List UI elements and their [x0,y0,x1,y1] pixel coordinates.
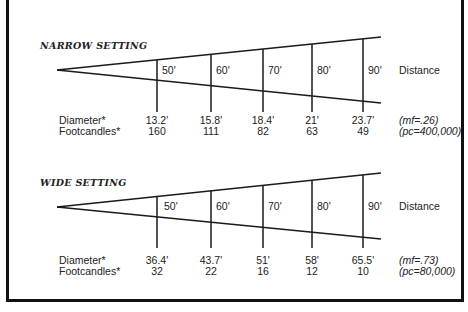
distance-label: 50' [162,64,176,76]
distance-label: 80' [317,200,331,212]
distance-axis-label: Distance [399,64,440,76]
footcandles-value: 22 [205,265,217,277]
pc-note: (pc=80,000) [399,265,455,277]
distance-label: 70' [268,200,282,212]
footcandles-value: 111 [203,125,219,137]
distance-label: 90' [368,200,382,212]
footcandles-value: 63 [306,125,318,137]
distance-label: 90' [368,64,382,76]
footcandles-row-label: Footcandles* [59,125,120,137]
distance-label: 80' [317,64,331,76]
distance-label: 60' [216,200,230,212]
footcandles-value: 160 [148,125,166,137]
footcandles-row-label: Footcandles* [59,265,120,277]
distance-axis-label: Distance [399,200,440,212]
distance-label: 60' [216,64,230,76]
footcandles-value: 10 [357,265,369,277]
footcandles-value: 49 [357,125,369,137]
pc-note: (pc=400,000) [399,125,461,137]
wide-setting-title: WIDE SETTING [40,177,127,188]
footcandles-value: 32 [151,265,163,277]
distance-label: 50' [164,200,178,212]
wide-setting-diagram: WIDE SETTING 50' 60' 70' 80' 90' Distanc… [40,173,455,277]
distance-label: 70' [268,64,282,76]
footcandles-value: 12 [306,265,318,277]
footcandles-value: 82 [257,125,269,137]
narrow-setting-title: NARROW SETTING [39,40,147,51]
footcandles-value: 16 [257,265,269,277]
narrow-setting-diagram: NARROW SETTING 50' 60' 70' 80' 90' Dista… [39,37,461,137]
